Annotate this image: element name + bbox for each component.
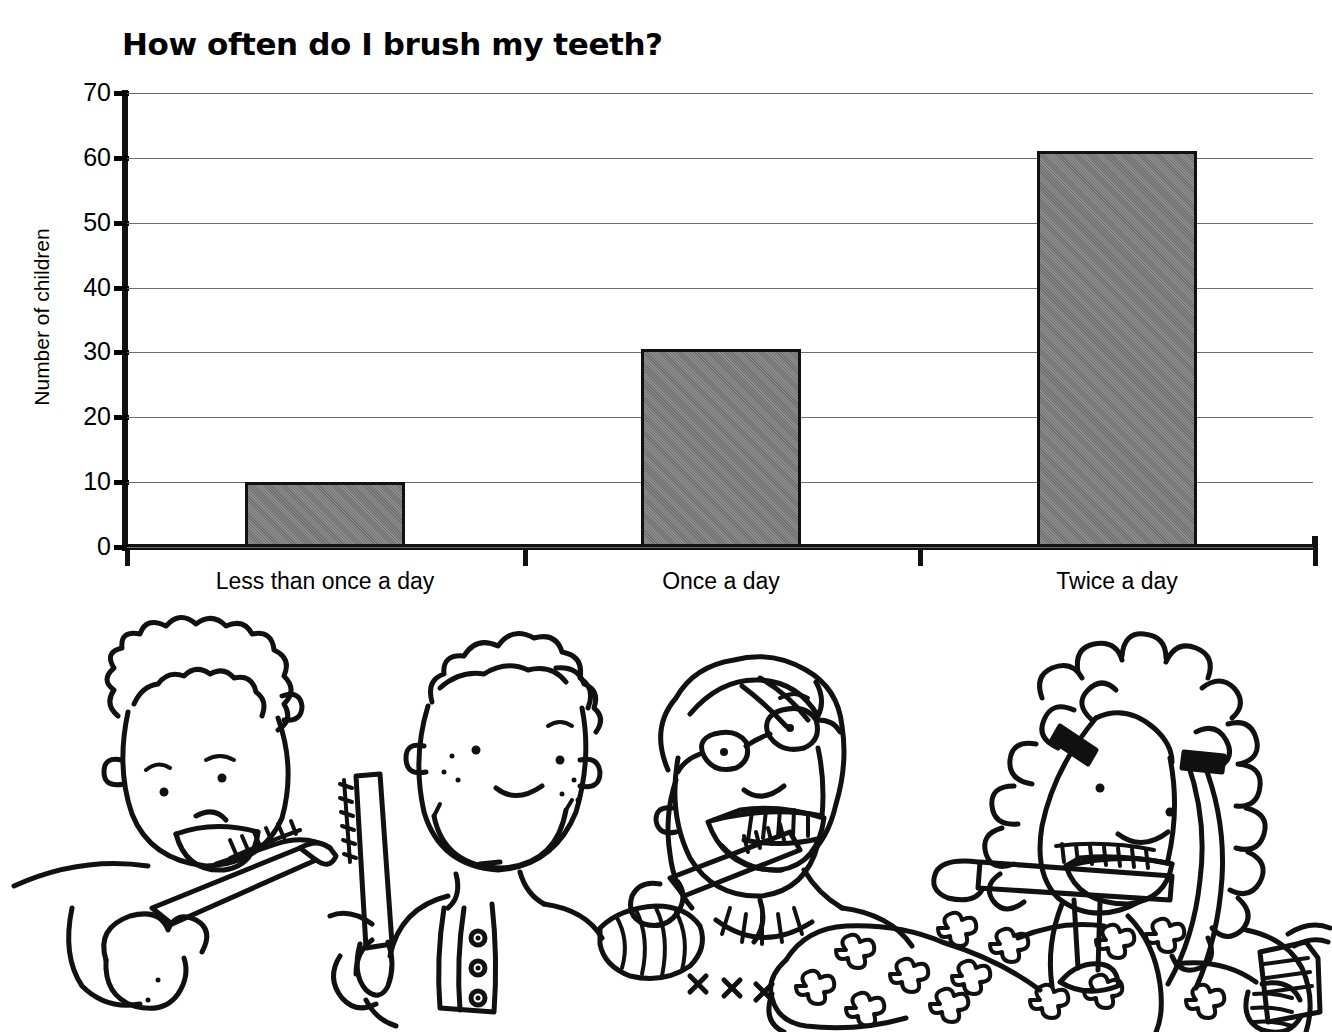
x-axis-category-label-1: Once a day <box>521 568 921 595</box>
x-axis-tick-0 <box>125 550 130 566</box>
x-axis-category-label-0: Less than once a day <box>125 568 525 595</box>
figure-freckled-boy-with-toothbrush <box>330 634 602 1027</box>
chart-title: How often do I brush my teeth? <box>122 26 663 62</box>
plot-area <box>127 93 1315 547</box>
y-axis-tick-label-40: 40 <box>51 275 111 300</box>
gridline-70 <box>127 93 1313 94</box>
bar-2[interactable] <box>1037 151 1197 547</box>
x-axis-tick-2 <box>918 550 923 566</box>
figure-curly-haired-girl-with-toothpaste <box>934 634 1330 1032</box>
figure-curly-haired-child-with-toothbrush <box>14 617 336 1008</box>
figure-girl-with-glasses-brushing <box>600 657 1040 1032</box>
y-axis-tick-label-30: 30 <box>51 339 111 364</box>
bar-0[interactable] <box>245 482 405 547</box>
bar-1[interactable] <box>641 349 801 547</box>
y-axis-tick-label-50: 50 <box>51 210 111 235</box>
page-root: How often do I brush my teeth? Number of… <box>0 0 1332 1032</box>
x-axis-tick-3 <box>1313 550 1318 566</box>
y-axis-tick-label-70: 70 <box>51 80 111 105</box>
gridline-0 <box>127 547 1313 548</box>
y-axis-tick-label-10: 10 <box>51 469 111 494</box>
x-axis-tick-1 <box>523 550 528 566</box>
bar-chart: How often do I brush my teeth? Number of… <box>0 0 1332 610</box>
x-axis-category-label-2: Twice a day <box>917 568 1317 595</box>
y-axis-tick-label-60: 60 <box>51 145 111 170</box>
y-axis-tick-label-0: 0 <box>51 534 111 559</box>
y-axis-tick-label-20: 20 <box>51 404 111 429</box>
illustration-children-brushing-teeth <box>0 608 1332 1032</box>
